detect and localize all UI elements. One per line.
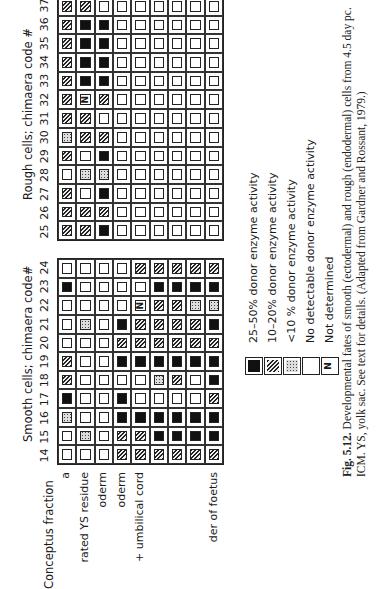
hatched-square-icon — [62, 113, 72, 124]
grid-cell — [205, 165, 223, 184]
grid-cell — [186, 109, 204, 128]
grid-cell — [168, 16, 186, 35]
grid-cell — [58, 72, 76, 91]
grid-cell — [131, 128, 149, 147]
dotted-square-icon — [286, 360, 298, 372]
grid-cell — [131, 34, 149, 53]
chimaera-code-label: 32 — [38, 90, 51, 109]
grid-cell — [186, 53, 204, 72]
empty-square-icon — [135, 393, 145, 404]
grid-cell — [58, 109, 76, 128]
chimaera-code-label: 33 — [38, 71, 51, 90]
dotted-square-icon — [99, 169, 109, 180]
grid-cell — [113, 16, 131, 35]
grid-cell — [186, 0, 204, 16]
grid-cell — [131, 445, 149, 464]
empty-square-icon — [80, 393, 90, 404]
grid-cell — [76, 278, 94, 297]
hatched-square-icon — [190, 319, 200, 330]
grid-cell — [205, 371, 223, 390]
grid-cell — [113, 445, 131, 464]
hatched-square-icon — [209, 263, 219, 274]
grid-cell — [186, 315, 204, 334]
empty-square-icon — [190, 393, 200, 404]
hatched-square-icon — [190, 449, 200, 460]
grid-cell — [205, 389, 223, 408]
empty-square-icon — [80, 263, 90, 274]
hatched-square-icon — [172, 375, 182, 386]
chimaera-code-label: 20 — [38, 333, 51, 352]
black-square-icon — [99, 225, 109, 236]
empty-square-icon — [135, 188, 145, 199]
grid-cell — [58, 34, 76, 53]
empty-square-icon — [117, 188, 127, 199]
grid-cell — [150, 221, 168, 240]
chimaera-code-label: 22 — [38, 296, 51, 315]
hatched-square-icon — [172, 319, 182, 330]
grid-cell — [205, 203, 223, 222]
grid-cell — [113, 184, 131, 203]
empty-square-icon — [209, 20, 219, 31]
empty-square-icon — [172, 393, 182, 404]
empty-square-icon — [135, 38, 145, 49]
hatched-square-icon — [154, 263, 164, 274]
grid-cell — [95, 34, 113, 53]
grid-cell — [76, 389, 94, 408]
chimaera-code-label: 25 — [38, 222, 51, 241]
empty-square-icon — [99, 393, 109, 404]
black-square-icon — [80, 76, 90, 87]
grid-cell — [76, 408, 94, 427]
grid-cell — [168, 445, 186, 464]
hatched-square-icon — [80, 113, 90, 124]
grid-cell — [131, 16, 149, 35]
legend-label: No detectable donor enzyme activity — [304, 139, 317, 343]
legend-item: No detectable donor enzyme activity — [301, 139, 320, 375]
grid-cell — [131, 53, 149, 72]
empty-square-icon — [190, 57, 200, 68]
grid-cell — [95, 165, 113, 184]
grid-cell — [58, 165, 76, 184]
grid-cell — [95, 90, 113, 109]
empty-square-icon — [135, 225, 145, 236]
grid-cell — [113, 315, 131, 334]
grid-cell — [186, 165, 204, 184]
chimaera-code-label: 15 — [38, 427, 51, 446]
grid-cell — [113, 334, 131, 353]
hatched-square-icon — [62, 76, 72, 87]
empty-square-icon — [190, 38, 200, 49]
grid-cell — [131, 427, 149, 446]
chimaera-code-label: 29 — [38, 147, 51, 166]
grid-cell — [150, 371, 168, 390]
black-square-icon — [209, 319, 219, 330]
grid-cell — [168, 53, 186, 72]
black-square-icon — [172, 431, 182, 442]
chimaera-code-label: 14 — [38, 446, 51, 465]
grid-cell — [113, 296, 131, 315]
grid-cell — [168, 278, 186, 297]
empty-square-icon — [154, 20, 164, 31]
hatched-square-icon — [62, 356, 72, 367]
grid-cell — [150, 90, 168, 109]
legend-swatch — [283, 357, 301, 375]
empty-square-icon — [154, 76, 164, 87]
hatched-square-icon — [62, 94, 72, 105]
black-square-icon — [99, 151, 109, 162]
hatched-square-icon — [62, 225, 72, 236]
legend-item: <10 % donor enzyme activity — [282, 139, 301, 375]
empty-square-icon — [80, 300, 90, 311]
grid-cell — [186, 278, 204, 297]
empty-square-icon — [172, 132, 182, 143]
black-square-icon — [80, 38, 90, 49]
grid-cell — [186, 389, 204, 408]
legend-label: <10 % donor enzyme activity — [285, 179, 298, 343]
black-square-icon — [117, 319, 127, 330]
hatched-square-icon — [135, 338, 145, 349]
black-square-icon — [117, 393, 127, 404]
empty-square-icon — [117, 94, 127, 105]
empty-square-icon — [190, 20, 200, 31]
empty-square-icon — [209, 76, 219, 87]
grid-cell — [186, 259, 204, 278]
grid-cell — [113, 53, 131, 72]
chimaera-code-label: 28 — [38, 166, 51, 185]
grid-cell — [58, 315, 76, 334]
